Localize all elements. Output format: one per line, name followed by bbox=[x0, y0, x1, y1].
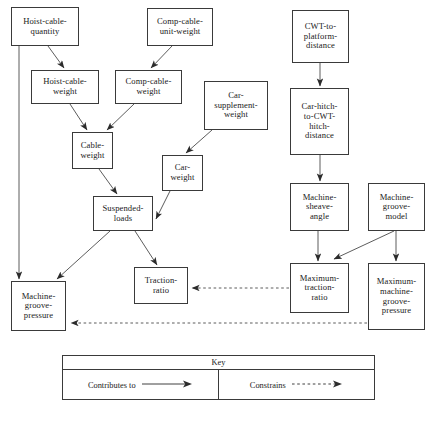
constrains-arrow-icon bbox=[291, 379, 343, 391]
edge-car-weight-to-suspended-loads bbox=[156, 191, 170, 219]
node-hoist-cable-quantity[interactable]: Hoist-cable- quantity bbox=[11, 7, 79, 46]
key-entry-constrains: Constrains bbox=[219, 370, 375, 400]
node-label: Car- weight bbox=[165, 163, 200, 182]
node-maximum-machine-groove-pressure[interactable]: Maximum- machine- groove- pressure bbox=[368, 263, 425, 330]
key-label-constrains: Constrains bbox=[250, 381, 286, 390]
node-maximum-traction-ratio[interactable]: Maximum- traction- ratio bbox=[290, 263, 349, 313]
edge-car-supplement-weight-to-car-weight bbox=[186, 130, 212, 153]
node-cable-weight[interactable]: Cable- weight bbox=[72, 132, 113, 169]
node-car-weight[interactable]: Car- weight bbox=[162, 155, 203, 191]
edge-hoist-cable-quantity-to-hoist-cable-weight bbox=[48, 46, 64, 68]
node-label: Maximum- machine- groove- pressure bbox=[371, 277, 422, 316]
contributes-to-arrow-icon bbox=[141, 379, 193, 391]
edge-hoist-cable-weight-to-cable-weight bbox=[70, 104, 87, 130]
node-cwt-to-platform-distance[interactable]: CWT-to- platform- distance bbox=[292, 10, 349, 63]
node-label: Machine- sheave- angle bbox=[293, 193, 346, 222]
key-title: Key bbox=[63, 356, 374, 370]
node-comp-cable-unit-weight[interactable]: Comp-cable- unit-weight bbox=[147, 8, 213, 46]
node-suspended-loads[interactable]: Suspended- loads bbox=[93, 196, 153, 231]
node-label: CWT-to- platform- distance bbox=[295, 22, 346, 51]
node-label: Hoist-cable- quantity bbox=[14, 17, 76, 36]
node-label: Hoist-cable- weight bbox=[34, 77, 96, 96]
node-car-hitch-to-cwt-hitch-distance[interactable]: Car-hitch- to-CWT- hitch- distance bbox=[290, 88, 349, 155]
key-legend: Key Contributes to Constrains bbox=[62, 355, 375, 400]
edge-machine-groove-model-to-maximum-traction-ratio bbox=[334, 231, 394, 259]
edge-cable-weight-to-suspended-loads bbox=[99, 169, 117, 194]
node-machine-sheave-angle[interactable]: Machine- sheave- angle bbox=[290, 183, 349, 231]
key-entry-contributes-to: Contributes to bbox=[63, 370, 219, 400]
node-machine-groove-pressure[interactable]: Machine- groove- pressure bbox=[11, 281, 66, 331]
edge-suspended-loads-to-traction-ratio bbox=[135, 231, 157, 265]
edge-comp-cable-unit-weight-to-comp-cable-weight bbox=[151, 46, 172, 68]
key-label-contributes-to: Contributes to bbox=[88, 381, 136, 390]
node-label: Suspended- loads bbox=[96, 204, 150, 223]
node-label: Comp-cable- weight bbox=[118, 77, 179, 96]
node-label: Car-hitch- to-CWT- hitch- distance bbox=[293, 102, 346, 141]
node-label: Machine- groove- pressure bbox=[14, 292, 63, 321]
node-label: Car- supplement- weight bbox=[207, 91, 265, 120]
node-car-supplement-weight[interactable]: Car- supplement- weight bbox=[204, 81, 268, 130]
node-label: Maximum- traction- ratio bbox=[293, 274, 346, 303]
node-comp-cable-weight[interactable]: Comp-cable- weight bbox=[115, 70, 182, 104]
node-label: Comp-cable- unit-weight bbox=[150, 17, 210, 36]
node-label: Machine- groove- model bbox=[371, 193, 422, 222]
node-machine-groove-model[interactable]: Machine- groove- model bbox=[368, 183, 425, 231]
node-label: Traction- ratio bbox=[137, 276, 185, 295]
node-traction-ratio[interactable]: Traction- ratio bbox=[134, 267, 188, 304]
node-label: Cable- weight bbox=[75, 141, 110, 160]
edge-comp-cable-weight-to-cable-weight bbox=[107, 104, 134, 130]
dependency-diagram: Hoist-cable- quantity Comp-cable- unit-w… bbox=[0, 0, 434, 426]
key-body: Contributes to Constrains bbox=[63, 370, 374, 400]
edge-suspended-loads-to-machine-groove-pressure bbox=[57, 231, 110, 279]
node-hoist-cable-weight[interactable]: Hoist-cable- weight bbox=[31, 70, 99, 104]
